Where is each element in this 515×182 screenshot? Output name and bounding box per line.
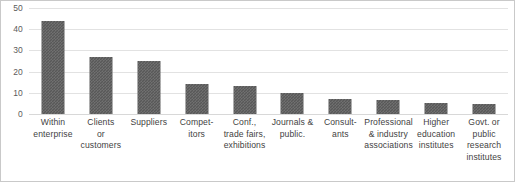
x-axis-category-label: Compet-itors: [173, 117, 221, 140]
x-axis-category-label-line: itors: [173, 129, 221, 141]
x-axis-category-label-line: education: [412, 129, 460, 141]
x-axis-category-label-line: Compet-: [173, 117, 221, 129]
x-axis-category-label: Clientsorcustomers: [77, 117, 125, 152]
bar-slot: [77, 8, 125, 114]
x-axis-category-label-line: & industry: [364, 129, 412, 141]
x-axis-category-label: Highereducationinstitutes: [412, 117, 460, 152]
x-axis-category-label-line: public.: [269, 129, 317, 141]
x-axis-category-label: Professional& industryassociations: [364, 117, 412, 152]
x-axis-category-label: Journals &public.: [269, 117, 317, 140]
bar-slot: [460, 8, 508, 114]
bar[interactable]: [137, 61, 160, 114]
bar[interactable]: [89, 57, 112, 114]
bar-chart: 50403020100 WithinenterpriseClientsorcus…: [0, 0, 515, 182]
x-axis-category-label-line: Conf.,: [221, 117, 269, 129]
x-axis-category-label-line: customers: [77, 140, 125, 152]
x-axis-category-label-line: institutes: [460, 152, 508, 164]
bar[interactable]: [425, 103, 448, 114]
y-axis-tick-label: 50: [13, 3, 23, 13]
bar[interactable]: [185, 84, 208, 114]
x-axis: WithinenterpriseClientsorcustomersSuppli…: [29, 117, 508, 181]
y-axis-tick-label: 30: [13, 45, 23, 55]
x-axis-category-label-line: Consult-: [316, 117, 364, 129]
x-axis-category-label-line: Professional: [364, 117, 412, 129]
bar-slot: [125, 8, 173, 114]
x-axis-category-label-line: Higher: [412, 117, 460, 129]
bar-slot: [29, 8, 77, 114]
x-axis-category-label-line: research: [460, 140, 508, 152]
bar[interactable]: [233, 86, 256, 114]
gridline: [29, 114, 508, 115]
x-axis-category-label-line: or: [77, 129, 125, 141]
x-axis-category-label-line: Govt. or: [460, 117, 508, 129]
x-axis-category-label: Govt. orpublicresearchinstitutes: [460, 117, 508, 163]
y-axis-tick-label: 40: [13, 24, 23, 34]
bar-series: [29, 8, 508, 114]
y-axis-tick-label: 0: [18, 109, 23, 119]
x-axis-category-label-line: enterprise: [29, 129, 77, 141]
y-axis-tick-label: 20: [13, 67, 23, 77]
bar[interactable]: [41, 21, 64, 114]
bar-slot: [269, 8, 317, 114]
bar[interactable]: [473, 104, 496, 114]
x-axis-category-label: Withinenterprise: [29, 117, 77, 140]
x-axis-category-label-line: Within: [29, 117, 77, 129]
x-axis-category-label-line: public: [460, 129, 508, 141]
x-axis-category-label-line: associations: [364, 140, 412, 152]
x-axis-category-label-line: Journals &: [269, 117, 317, 129]
x-axis-category-label-line: exhibitions: [221, 140, 269, 152]
bar[interactable]: [329, 99, 352, 114]
bar-slot: [412, 8, 460, 114]
x-axis-category-label-line: Clients: [77, 117, 125, 129]
x-axis-category-label-line: institutes: [412, 140, 460, 152]
x-axis-category-label: Consult-ants: [316, 117, 364, 140]
x-axis-category-label-line: Suppliers: [125, 117, 173, 129]
bar[interactable]: [281, 93, 304, 114]
bar-slot: [316, 8, 364, 114]
bar-slot: [364, 8, 412, 114]
x-axis-category-label-line: trade fairs,: [221, 129, 269, 141]
y-axis-tick-label: 10: [13, 88, 23, 98]
x-axis-category-label-line: ants: [316, 129, 364, 141]
x-axis-category-label: Conf.,trade fairs,exhibitions: [221, 117, 269, 152]
bar-slot: [173, 8, 221, 114]
bar[interactable]: [377, 100, 400, 114]
x-axis-category-label: Suppliers: [125, 117, 173, 129]
bar-slot: [221, 8, 269, 114]
y-axis: 50403020100: [1, 1, 27, 114]
